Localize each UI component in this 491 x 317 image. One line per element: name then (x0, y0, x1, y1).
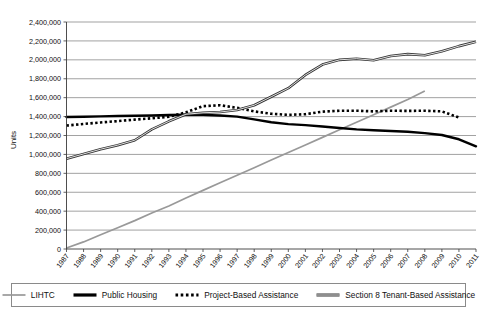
x-axis-tick-label: 2002 (310, 252, 327, 270)
x-axis-tick-label: 1989 (88, 252, 105, 270)
y-axis-tick-label: 2,400,000 (29, 18, 61, 27)
swatch-dotted-icon (175, 290, 199, 300)
x-axis-tick-label: 2005 (361, 252, 378, 270)
swatch-double-gray-icon (316, 290, 340, 300)
x-axis-tick-label: 2000 (276, 252, 293, 270)
x-axis-tick-label: 1988 (71, 252, 88, 270)
y-axis-tick-label: 1,600,000 (29, 93, 61, 102)
x-axis-tick-label: 1991 (122, 252, 139, 270)
x-axis-tick-label: 1990 (105, 252, 122, 270)
y-axis-tick-label: 800,000 (35, 169, 61, 178)
y-axis-tick-label: 1,000,000 (29, 150, 61, 159)
data-series (67, 42, 477, 248)
x-axis-tick-label: 2010 (447, 252, 464, 270)
gridlines (64, 22, 477, 249)
x-axis-tick-label: 2007 (395, 252, 412, 270)
legend-item-label: Project-Based Assistance (204, 291, 298, 299)
x-axis-tick-label: 1994 (174, 252, 191, 270)
x-axis-tick-label: 2006 (378, 252, 395, 270)
y-axis-tick-label: 600,000 (35, 188, 61, 197)
x-axis-tick-labels: 1987198819891990199119921993199419951996… (54, 249, 480, 270)
legend-item-lihtc[interactable]: LIHTC (2, 290, 55, 300)
x-axis-tick-label: 1999 (259, 252, 276, 270)
x-axis-tick-label: 1987 (54, 252, 71, 270)
x-axis-tick-label: 1992 (139, 252, 156, 270)
y-axis-tick-label: 400,000 (35, 207, 61, 216)
x-axis-tick-label: 2009 (430, 252, 447, 270)
x-axis-tick-label: 1998 (242, 252, 259, 270)
y-axis-tick-label: 0 (57, 245, 61, 254)
chart-legend: LIHTCPublic HousingProject-Based Assista… (11, 283, 466, 307)
x-axis-tick-label: 2001 (293, 252, 310, 270)
x-axis-tick-label: 1996 (208, 252, 225, 270)
x-axis-tick-label: 2004 (344, 252, 361, 270)
y-axis-tick-label: 1,400,000 (29, 112, 61, 121)
y-axis-tick-label: 1,200,000 (29, 131, 61, 140)
y-axis-tick-label: 1,800,000 (29, 74, 61, 83)
legend-item-section-8-tenant-based-assistance[interactable]: Section 8 Tenant-Based Assistance (316, 290, 475, 300)
legend-item-label: Section 8 Tenant-Based Assistance (345, 291, 475, 299)
y-axis-tick-label: 200,000 (35, 226, 61, 235)
x-axis-tick-label: 2011 (464, 252, 481, 270)
x-axis-tick-label: 2008 (412, 252, 429, 270)
x-axis-tick-label: 2003 (327, 252, 344, 270)
y-axis-title: Units (9, 131, 18, 149)
swatch-thin-gray-icon (2, 290, 26, 300)
y-axis-tick-label: 2,000,000 (29, 55, 61, 64)
x-axis-tick-label: 1993 (157, 252, 174, 270)
y-axis-tick-label: 2,200,000 (29, 37, 61, 46)
legend-item-project-based-assistance[interactable]: Project-Based Assistance (175, 290, 298, 300)
swatch-thick-black-icon (73, 290, 97, 300)
legend-item-public-housing[interactable]: Public Housing (73, 290, 157, 300)
y-axis-tick-labels: 0200,000400,000600,000800,0001,000,0001,… (29, 18, 61, 254)
chart-figure: 0200,000400,000600,000800,0001,000,0001,… (0, 0, 491, 317)
line-chart-canvas: 0200,000400,000600,000800,0001,000,0001,… (0, 0, 491, 317)
series-line-section8-tenant-based-outer (67, 42, 477, 159)
x-axis-tick-label: 1995 (191, 252, 208, 270)
series-line-lihtc (67, 91, 425, 248)
legend-item-label: LIHTC (31, 291, 55, 299)
legend-item-label: Public Housing (102, 291, 157, 299)
x-axis-tick-label: 1997 (225, 252, 242, 270)
